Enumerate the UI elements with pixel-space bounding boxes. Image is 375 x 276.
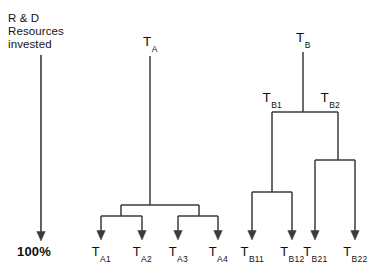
tree-a-root-label: TA [143, 34, 157, 52]
tree-a-leaf-label-A3-base: T [169, 244, 177, 259]
tree-b-leaf-label-B12-base: T [280, 244, 288, 259]
tree-a-leaf-label-A2-base: T [133, 244, 141, 259]
tree-a-leaf-label-A1: TA1 [92, 244, 111, 262]
diagram-canvas: R & D Resources invested 100% TATA1TA2TA… [0, 0, 375, 276]
tree-b-node-label-B2-subscript: B2 [329, 100, 340, 110]
tree-b-leaf-label-B21: TB21 [303, 244, 327, 262]
tree-a-leaf-arrowhead-A4 [214, 231, 222, 241]
tree-a-leaf-label-A2-subscript: A2 [141, 254, 152, 264]
tree-a-leaf-label-A4-subscript: A4 [217, 254, 228, 264]
tree-b-leaf-label-B22: TB22 [343, 244, 367, 262]
tree-b-leaf-label-B22-base: T [343, 244, 351, 259]
tree-a-leaf-label-A1-subscript: A1 [100, 254, 111, 264]
tree-a-leaf-arrowhead-A2 [138, 231, 146, 241]
tree-b-node-label-B1-subscript: B1 [271, 100, 282, 110]
tree-a-leaf-label-A3-subscript: A3 [177, 254, 188, 264]
tree-b-leaf-label-B11-base: T [240, 244, 248, 259]
axis-bottom-label: 100% [17, 244, 51, 259]
tree-a-leaf-arrowhead-A1 [97, 231, 105, 241]
tree-b-leaf-label-B21-base: T [303, 244, 311, 259]
tree-b-leaf-label-B21-subscript: B21 [312, 254, 328, 264]
tree-a-leaf-arrowhead-A3 [174, 231, 182, 241]
tree-b-leaf-arrowhead-B11 [248, 231, 256, 241]
tree-b-node-label-B1: TB1 [262, 90, 281, 108]
axis-caption: R & D Resources invested [8, 12, 128, 51]
tree-b-leaf-arrowhead-B22 [351, 231, 359, 241]
tree-b-node-label-B2-base: T [320, 90, 328, 105]
tree-b-leaf-label-B11: TB11 [240, 244, 263, 262]
tree-a-leaf-label-A4-base: T [209, 244, 217, 259]
tree-b-leaf-arrowhead-B12 [288, 231, 296, 241]
tree-b-root-label-subscript: B [305, 40, 311, 50]
tree-a-leaf-label-A3: TA3 [169, 244, 188, 262]
tree-a-leaf-label-A4: TA4 [209, 244, 228, 262]
tree-a-group [97, 56, 222, 240]
tree-a-leaf-label-A2: TA2 [133, 244, 152, 262]
tree-b-group [248, 52, 359, 240]
tree-b-leaf-arrowhead-B21 [311, 231, 319, 241]
tree-b-leaf-label-B12-subscript: B12 [289, 254, 305, 264]
tree-b-leaf-label-B22-subscript: B22 [352, 254, 368, 264]
resource-axis-arrowhead [37, 232, 45, 242]
tree-a-root-label-subscript: A [152, 44, 158, 54]
tree-b-root-label-base: T [296, 30, 304, 45]
tree-a-root-label-base: T [143, 34, 151, 49]
tree-b-root-label: TB [296, 30, 310, 48]
tree-b-node-label-B1-base: T [262, 90, 270, 105]
tree-a-leaf-label-A1-base: T [92, 244, 100, 259]
tree-b-leaf-label-B11-subscript: B11 [249, 254, 264, 264]
tree-b-node-label-B2: TB2 [320, 90, 339, 108]
tree-b-leaf-label-B12: TB12 [280, 244, 304, 262]
